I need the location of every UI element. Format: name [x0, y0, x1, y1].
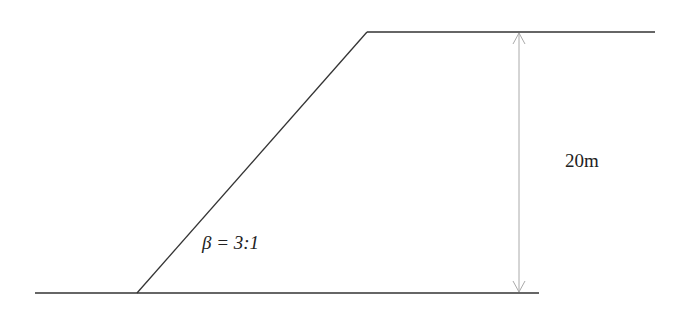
slope-ratio-label: β = 3:1 — [202, 232, 259, 254]
height-dimension-arrow — [513, 33, 525, 292]
height-label: 20m — [565, 150, 599, 172]
